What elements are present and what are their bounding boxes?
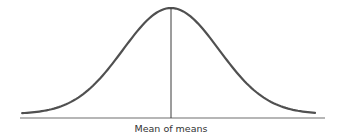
bell-curve-diagram: Mean of means [0, 0, 343, 139]
mean-of-means-label: Mean of means [135, 123, 208, 134]
normal-distribution-curve [22, 8, 315, 113]
